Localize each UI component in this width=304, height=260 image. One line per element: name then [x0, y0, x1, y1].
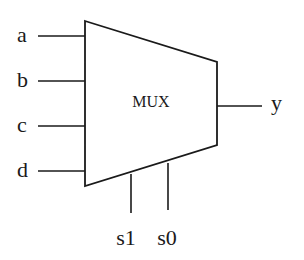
input-label-a: a [17, 22, 27, 47]
mux-diagram: MUX a b c d y s1 s0 [0, 0, 304, 260]
select-label-s0: s0 [157, 225, 177, 250]
input-label-b: b [17, 67, 28, 92]
select-label-s1: s1 [116, 225, 136, 250]
input-label-c: c [17, 112, 27, 137]
output-label-y: y [271, 90, 282, 115]
mux-label: MUX [132, 93, 170, 110]
input-label-d: d [17, 157, 28, 182]
